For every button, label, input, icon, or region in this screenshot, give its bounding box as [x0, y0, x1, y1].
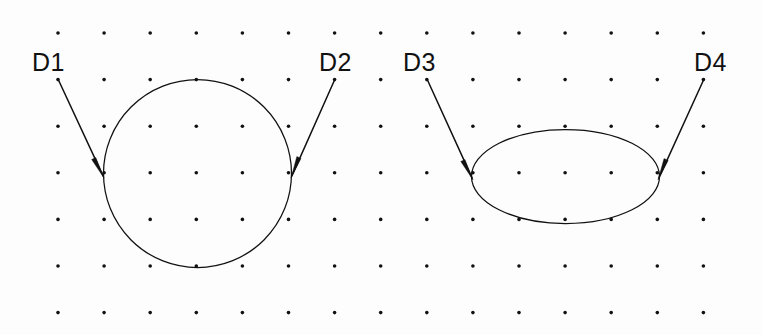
grid-dot [148, 171, 152, 175]
grid-dot [56, 218, 60, 222]
grid-dot [56, 264, 60, 268]
grid-dot [195, 171, 199, 175]
dimension-leaders [58, 79, 704, 180]
dot-grid [56, 31, 705, 314]
grid-dot [471, 218, 475, 222]
grid-dot [471, 124, 475, 128]
grid-dot [241, 124, 245, 128]
grid-dot [517, 31, 521, 35]
grid-dot [609, 311, 613, 315]
grid-dot [195, 311, 199, 315]
grid-dot [195, 124, 199, 128]
grid-dot [287, 311, 291, 315]
grid-dot [287, 264, 291, 268]
grid-dot [241, 311, 245, 315]
grid-dot [563, 218, 567, 222]
grid-dot [379, 171, 383, 175]
grid-dot [425, 124, 429, 128]
grid-dot [241, 171, 245, 175]
grid-dot [333, 311, 337, 315]
grid-dot [517, 311, 521, 315]
grid-dot [609, 124, 613, 128]
figure-svg [0, 0, 762, 335]
grid-dot [379, 311, 383, 315]
grid-dot [148, 218, 152, 222]
grid-dot [379, 31, 383, 35]
grid-dot [287, 78, 291, 82]
arrow-head-D3 [461, 159, 473, 180]
grid-dot [102, 311, 106, 315]
grid-dot [287, 218, 291, 222]
grid-dot [333, 171, 337, 175]
grid-dot [102, 218, 106, 222]
grid-dot [425, 311, 429, 315]
grid-dot [195, 218, 199, 222]
grid-dot [517, 264, 521, 268]
arrow-head-D4 [658, 159, 668, 180]
grid-dot [56, 171, 60, 175]
grid-dot [425, 264, 429, 268]
grid-dot [56, 31, 60, 35]
grid-dot [609, 171, 613, 175]
grid-dot [56, 311, 60, 315]
grid-dot [287, 31, 291, 35]
grid-dot [563, 264, 567, 268]
grid-dot [609, 31, 613, 35]
grid-dot [563, 31, 567, 35]
grid-dot [425, 31, 429, 35]
grid-dot [102, 124, 106, 128]
drawing-canvas: D1D2D3D4 [0, 0, 762, 335]
grid-dot [471, 311, 475, 315]
grid-dot [563, 171, 567, 175]
grid-dot [517, 78, 521, 82]
dimension-label-d2: D2 [319, 50, 352, 75]
grid-dot [287, 171, 291, 175]
grid-dot [241, 78, 245, 82]
grid-dot [379, 218, 383, 222]
dimension-label-d3: D3 [403, 50, 436, 75]
dimension-label-d4: D4 [694, 50, 727, 75]
grid-dot [702, 311, 706, 315]
grid-dot [148, 311, 152, 315]
grid-dot [656, 124, 660, 128]
grid-dot [656, 311, 660, 315]
grid-dot [425, 171, 429, 175]
grid-dot [148, 124, 152, 128]
grid-dot [656, 78, 660, 82]
grid-dot [333, 124, 337, 128]
grid-dot [379, 264, 383, 268]
grid-dot [241, 31, 245, 35]
grid-dot [102, 78, 106, 82]
grid-dot [609, 78, 613, 82]
grid-dot [148, 264, 152, 268]
grid-dot [702, 31, 706, 35]
grid-dot [517, 124, 521, 128]
grid-dot [241, 218, 245, 222]
grid-dot [241, 264, 245, 268]
grid-dot [195, 31, 199, 35]
grid-dot [702, 124, 706, 128]
grid-dot [379, 78, 383, 82]
grid-dot [102, 31, 106, 35]
grid-dot [333, 264, 337, 268]
grid-dot [563, 78, 567, 82]
dimension-label-d1: D1 [32, 50, 65, 75]
shape-ellipse [472, 130, 660, 224]
grid-dot [287, 124, 291, 128]
grid-dot [102, 264, 106, 268]
grid-dot [379, 124, 383, 128]
grid-dot [702, 264, 706, 268]
grid-dot [702, 218, 706, 222]
grid-dot [656, 264, 660, 268]
arrow-head-D1 [92, 158, 104, 178]
grid-dot [471, 31, 475, 35]
grid-dot [333, 31, 337, 35]
grid-dot [563, 311, 567, 315]
grid-dot [517, 171, 521, 175]
grid-dot [471, 78, 475, 82]
grid-dot [656, 218, 660, 222]
grid-dot [56, 124, 60, 128]
grid-dot [148, 31, 152, 35]
arrow-head-D2 [291, 157, 301, 178]
grid-dot [425, 218, 429, 222]
